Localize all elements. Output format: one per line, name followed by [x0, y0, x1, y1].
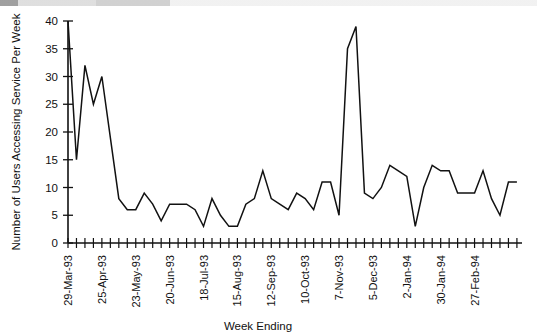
y-tick-label: 20: [45, 126, 58, 138]
x-tick-label: 5-Dec-93: [367, 255, 379, 300]
x-tick-label: 20-Jun-93: [164, 255, 176, 305]
y-tick-label: 0: [52, 237, 58, 249]
x-tick-label: 23-May-93: [130, 255, 142, 308]
x-tick-label: 12-Sep-93: [265, 255, 277, 306]
plot-area: [68, 21, 517, 226]
y-tick-label: 40: [45, 15, 58, 27]
y-tick-label: 35: [45, 43, 58, 55]
y-axis-title: Number of Users Accessing Service Per We…: [10, 13, 22, 250]
x-tick-label-group: 29-Mar-9325-Apr-9323-May-9320-Jun-9318-J…: [62, 255, 481, 308]
x-tick-label: 27-Feb-94: [469, 255, 481, 306]
data-series-line: [68, 21, 517, 226]
x-tick-label: 7-Nov-93: [333, 255, 345, 300]
x-tick-label: 18-Jul-93: [198, 255, 210, 301]
x-axis: 29-Mar-9325-Apr-9323-May-9320-Jun-9318-J…: [62, 238, 522, 308]
x-tick-label: 2-Jan-94: [401, 255, 413, 298]
y-tick-label: 5: [52, 209, 58, 221]
x-tick-label: 29-Mar-93: [62, 255, 74, 306]
x-tick-label: 30-Jan-94: [435, 255, 447, 305]
x-axis-title: Week Ending: [224, 320, 292, 332]
y-tick-label-group: 0510152025303540: [45, 15, 58, 249]
x-tick-label: 25-Apr-93: [96, 255, 108, 304]
y-tick-label: 30: [45, 71, 58, 83]
line-chart: 0510152025303540 29-Mar-9325-Apr-9323-Ma…: [0, 0, 537, 336]
y-tick-label: 15: [45, 154, 58, 166]
y-axis: 0510152025303540: [45, 15, 73, 249]
x-tick-label: 10-Oct-93: [299, 255, 311, 304]
chart-canvas: 0510152025303540 29-Mar-9325-Apr-9323-Ma…: [0, 0, 537, 336]
x-tick-label: 15-Aug-93: [231, 255, 243, 306]
y-tick-label: 25: [45, 98, 58, 110]
y-tick-label: 10: [45, 182, 58, 194]
